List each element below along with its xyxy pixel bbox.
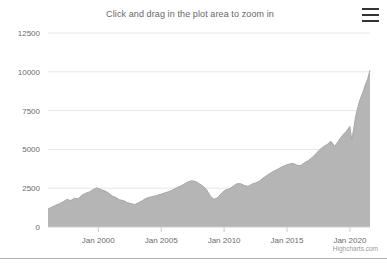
y-axis-tick-label: 7500 <box>0 106 40 115</box>
y-axis-tick-label: 10000 <box>0 67 40 76</box>
y-axis-tick-label: 12500 <box>0 29 40 38</box>
y-axis-tick-label: 5000 <box>0 145 40 154</box>
x-axis-tick-label: Jan 2005 <box>131 236 191 245</box>
x-axis-tick-label: Jan 2020 <box>320 236 380 245</box>
x-axis-tick-label: Jan 2000 <box>68 236 128 245</box>
y-axis-tick-label: 0 <box>0 223 40 232</box>
x-axis-tick-label: Jan 2015 <box>257 236 317 245</box>
y-axis-tick-label: 2500 <box>0 184 40 193</box>
x-axis-tick-label: Jan 2010 <box>194 236 254 245</box>
bottom-border <box>0 258 387 259</box>
axis-ticks <box>98 227 350 232</box>
highcharts-chart[interactable]: Click and drag in the plot area to zoom … <box>0 0 387 269</box>
plot-area[interactable] <box>0 0 387 269</box>
series-area <box>48 70 370 227</box>
highcharts-credits[interactable]: Highcharts.com <box>333 245 378 252</box>
